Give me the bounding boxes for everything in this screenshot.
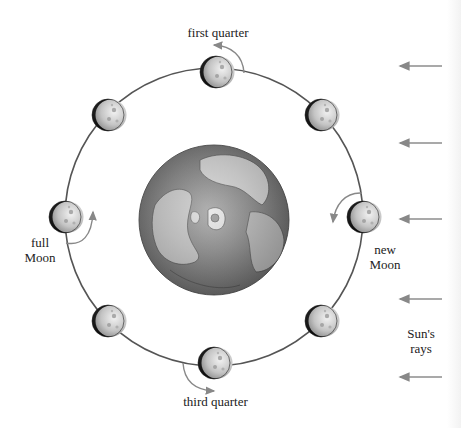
moon-waning-crescent [305, 305, 340, 337]
moon-waxing-gibbous [92, 99, 127, 131]
moon-waning-gibbous [92, 305, 127, 337]
label-first-quarter: first quarter [168, 25, 268, 40]
moon-third-quarter [198, 347, 233, 379]
label-full-moon: full Moon [18, 235, 62, 265]
earth-globe [139, 145, 289, 295]
moon-full [49, 201, 84, 233]
page-edge [447, 0, 461, 428]
moon-new [347, 201, 382, 233]
moon-waxing-crescent [305, 99, 340, 131]
label-sun-rays: Sun's rays [396, 326, 446, 356]
moon-first-quarter [200, 56, 235, 88]
label-third-quarter: third quarter [163, 394, 268, 409]
moon-phase-diagram [0, 0, 461, 428]
label-new-moon: new Moon [360, 242, 410, 272]
